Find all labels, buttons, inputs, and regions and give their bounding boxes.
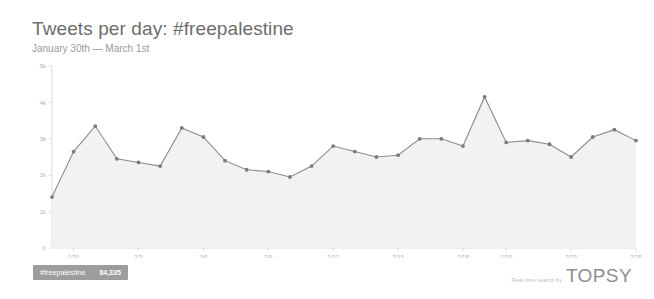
legend-badge-freepalestine[interactable]: #freepalestine 84,335 [33,265,128,280]
x-tick-label: 2/23 [565,254,577,258]
data-point-marker [634,139,638,143]
data-point-marker [180,126,184,130]
chart-date-range: January 30th — March 1st [32,43,592,55]
data-point-marker [418,137,422,141]
y-tick-label: 5k [40,63,47,69]
data-point-marker [375,155,379,159]
legend-count-label: 84,335 [99,269,120,276]
data-point-marker [137,161,141,165]
data-point-marker [569,155,573,159]
data-point-marker [202,135,206,139]
x-tick-label: 2/26 [630,254,642,258]
data-point-marker [526,139,530,143]
data-point-marker [504,141,508,145]
x-tick-label: 2/9 [264,254,273,258]
data-point-marker [50,195,54,199]
data-point-marker [72,150,76,154]
data-point-marker [310,164,314,168]
x-tick-label: 2/3 [134,254,143,258]
data-point-marker [612,128,616,132]
page-title: Tweets per day: #freepalestine [32,18,592,40]
data-point-marker [223,159,227,163]
chart-plot-area: 5k4k3k2k1k01/312/32/62/92/122/152/182/20… [0,58,654,258]
data-point-marker [115,157,119,161]
data-point-marker [288,175,292,179]
data-point-marker [483,95,487,99]
x-tick-label: 2/6 [199,254,208,258]
powered-by-label: Real-time search by [512,277,562,283]
chart-header: Tweets per day: #freepalestine January 3… [32,18,592,55]
data-point-marker [245,168,249,172]
data-point-marker [548,142,552,146]
chart-footer: Real-time search by TOPSY [512,266,632,285]
x-tick-label: 2/12 [327,254,339,258]
data-point-marker [461,144,465,148]
x-tick-label: 2/18 [457,254,469,258]
topsy-chart-widget: Tweets per day: #freepalestine January 3… [0,0,654,299]
data-point-marker [266,170,270,174]
tweets-per-day-area-chart: 5k4k3k2k1k01/312/32/62/92/122/152/182/20… [0,58,654,258]
y-tick-label: 1k [40,209,47,215]
data-point-marker [93,124,97,128]
data-point-marker [396,153,400,157]
data-point-marker [158,164,162,168]
x-tick-label: 2/15 [392,254,404,258]
data-point-marker [591,135,595,139]
y-tick-label: 2k [40,172,47,178]
data-point-marker [353,150,357,154]
series-area-fill [52,97,636,248]
data-point-marker [331,144,335,148]
y-tick-label: 0 [43,245,47,251]
x-tick-label: 2/20 [500,254,512,258]
y-tick-label: 3k [40,136,47,142]
x-tick-label: 1/31 [68,254,80,258]
data-point-marker [439,137,443,141]
y-tick-label: 4k [40,100,47,106]
legend-term-label: #freepalestine [40,269,85,276]
topsy-logo: TOPSY [566,266,632,285]
